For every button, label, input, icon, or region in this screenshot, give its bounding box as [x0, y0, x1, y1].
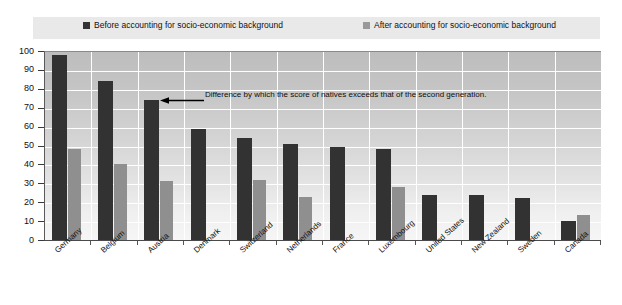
bar-before	[422, 195, 437, 240]
bar-before	[237, 138, 252, 240]
x-axis-tick	[461, 241, 462, 245]
y-axis-label: 50	[0, 141, 34, 150]
bar-series-group	[44, 51, 600, 240]
x-axis-tick	[322, 241, 323, 245]
x-axis-tick	[276, 241, 277, 245]
y-axis-label: 60	[0, 122, 34, 131]
y-axis-label: 70	[0, 103, 34, 112]
y-axis-tick	[38, 240, 44, 241]
chart-container: Before accounting for socio-economic bac…	[0, 0, 622, 305]
chart-legend: Before accounting for socio-economic bac…	[33, 17, 600, 39]
bar-before	[98, 81, 113, 240]
legend-swatch-after-icon	[363, 22, 370, 29]
y-axis-label: 10	[0, 217, 34, 226]
bar-after	[160, 181, 173, 240]
y-axis-label: 90	[0, 65, 34, 74]
annotation-label: Difference by which the score of natives…	[205, 90, 486, 99]
bar-before	[52, 55, 67, 240]
x-axis-tick	[368, 241, 369, 245]
legend-label-before: Before accounting for socio-economic bac…	[94, 21, 283, 30]
legend-label-after: After accounting for socio-economic back…	[374, 21, 556, 30]
x-axis-tick	[507, 241, 508, 245]
y-axis-label: 0	[0, 236, 34, 245]
x-axis-tick	[600, 241, 601, 245]
bar-before	[469, 195, 484, 240]
y-axis-label: 40	[0, 160, 34, 169]
x-axis-tick	[90, 241, 91, 245]
bar-before	[515, 198, 530, 240]
y-axis-label: 30	[0, 179, 34, 188]
x-axis-tick	[137, 241, 138, 245]
legend-item-after: After accounting for socio-economic back…	[363, 21, 556, 30]
x-axis-tick	[415, 241, 416, 245]
y-axis-label: 100	[0, 47, 34, 56]
bar-before	[144, 100, 159, 240]
bar-before	[376, 149, 391, 240]
bar-before	[283, 144, 298, 240]
x-axis-tick	[183, 241, 184, 245]
left-arrow-icon	[160, 97, 204, 104]
legend-swatch-before-icon	[83, 22, 90, 29]
legend-item-before: Before accounting for socio-economic bac…	[83, 21, 283, 30]
bar-before	[191, 129, 206, 241]
y-axis-label: 20	[0, 198, 34, 207]
x-axis-tick	[229, 241, 230, 245]
bar-before	[330, 147, 345, 240]
y-axis-label: 80	[0, 84, 34, 93]
x-axis-tick	[554, 241, 555, 245]
